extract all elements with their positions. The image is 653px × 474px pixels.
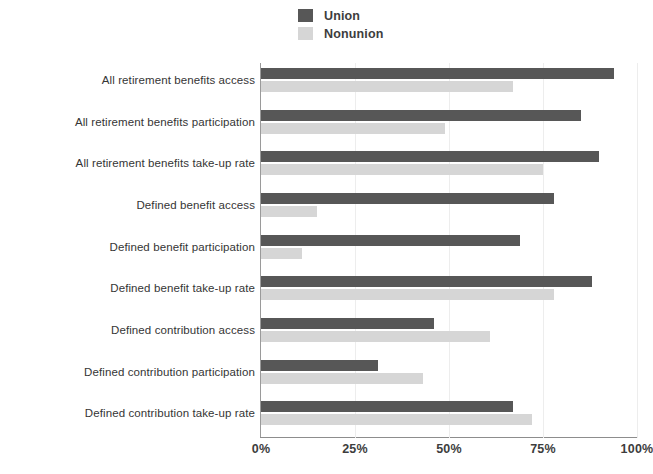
- x-axis-tick-labels: 0%25%50%75%100%: [261, 442, 637, 462]
- category-label: Defined contribution take-up rate: [0, 407, 255, 419]
- bar-union[interactable]: [261, 235, 520, 246]
- bar-nonunion[interactable]: [261, 81, 513, 92]
- bar-group: [261, 235, 637, 261]
- bar-nonunion[interactable]: [261, 414, 532, 425]
- legend-label-nonunion: Nonunion: [324, 27, 384, 41]
- bar-group: [261, 151, 637, 177]
- bar-nonunion[interactable]: [261, 331, 490, 342]
- bar-union[interactable]: [261, 360, 378, 371]
- bar-union[interactable]: [261, 401, 513, 412]
- bar-union[interactable]: [261, 276, 592, 287]
- bar-nonunion[interactable]: [261, 373, 423, 384]
- legend-item-nonunion[interactable]: Nonunion: [298, 26, 384, 41]
- bar-group: [261, 193, 637, 219]
- category-label: Defined contribution participation: [0, 366, 255, 378]
- x-tick-label: 100%: [621, 442, 653, 456]
- bar-group: [261, 318, 637, 344]
- x-tick-label: 75%: [530, 442, 556, 456]
- category-label: Defined benefit participation: [0, 241, 255, 253]
- x-tick-label: 25%: [342, 442, 368, 456]
- category-label: All retirement benefits take-up rate: [0, 157, 255, 169]
- category-label: Defined contribution access: [0, 324, 255, 336]
- bar-union[interactable]: [261, 68, 614, 79]
- category-label: All retirement benefits participation: [0, 116, 255, 128]
- bar-nonunion[interactable]: [261, 206, 317, 217]
- legend-item-union[interactable]: Union: [298, 8, 384, 23]
- bar-nonunion[interactable]: [261, 123, 445, 134]
- x-tick-label: 50%: [436, 442, 462, 456]
- bar-union[interactable]: [261, 110, 581, 121]
- category-label: All retirement benefits access: [0, 74, 255, 86]
- bar-nonunion[interactable]: [261, 164, 543, 175]
- category-label: Defined benefit take-up rate: [0, 282, 255, 294]
- bar-group: [261, 360, 637, 386]
- bar-nonunion[interactable]: [261, 248, 302, 259]
- category-label: Defined benefit access: [0, 199, 255, 211]
- bar-group: [261, 110, 637, 136]
- bar-union[interactable]: [261, 193, 554, 204]
- bar-union[interactable]: [261, 318, 434, 329]
- chart-legend: Union Nonunion: [298, 8, 384, 41]
- bar-nonunion[interactable]: [261, 289, 554, 300]
- x-tick-label: 0%: [252, 442, 270, 456]
- gridline: [637, 63, 638, 438]
- legend-swatch-union: [298, 9, 313, 22]
- bar-union[interactable]: [261, 151, 599, 162]
- plot-area: [261, 63, 637, 438]
- legend-label-union: Union: [324, 9, 360, 23]
- category-axis-labels: All retirement benefits accessAll retire…: [0, 63, 255, 438]
- bar-group: [261, 276, 637, 302]
- bar-group: [261, 401, 637, 427]
- legend-swatch-nonunion: [298, 27, 313, 40]
- bar-group: [261, 68, 637, 94]
- plot-wrapper: All retirement benefits accessAll retire…: [0, 63, 652, 438]
